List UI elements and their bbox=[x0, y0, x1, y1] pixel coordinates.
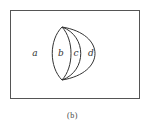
region-label-c: c bbox=[73, 48, 78, 58]
figure-caption: (b) bbox=[0, 111, 145, 120]
diagram-canvas: a b c d bbox=[0, 0, 145, 127]
region-label-a: a bbox=[32, 48, 37, 58]
region-label-d: d bbox=[88, 48, 94, 58]
region-label-b: b bbox=[58, 48, 64, 58]
venn-diagram-figure: a b c d (b) bbox=[0, 0, 145, 127]
